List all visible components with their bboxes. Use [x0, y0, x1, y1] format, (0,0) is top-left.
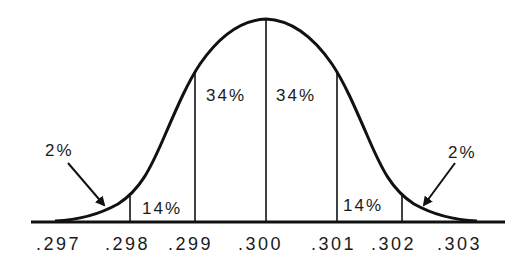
- label-right-tail: 2%: [448, 143, 477, 163]
- tick-label: .298: [105, 234, 150, 255]
- right-tail-arrow-icon: [424, 163, 455, 205]
- bell-curve-graphic: [0, 0, 529, 269]
- label-center-left: 34%: [206, 86, 246, 106]
- left-tail-arrow-icon: [68, 163, 104, 205]
- label-left-tail: 2%: [45, 141, 74, 161]
- tick-label: .297: [36, 234, 81, 255]
- tick-label: .302: [371, 234, 416, 255]
- label-right-mid: 14%: [343, 196, 383, 216]
- tick-label: .303: [437, 234, 482, 255]
- label-left-mid: 14%: [142, 199, 182, 219]
- tick-label: .299: [168, 234, 213, 255]
- label-center-right: 34%: [276, 86, 316, 106]
- tick-label: .300: [238, 234, 283, 255]
- tick-label: .301: [311, 234, 356, 255]
- bell-curve-diagram: 2% 14% 34% 34% 14% 2% .297 .298 .299 .30…: [0, 0, 529, 269]
